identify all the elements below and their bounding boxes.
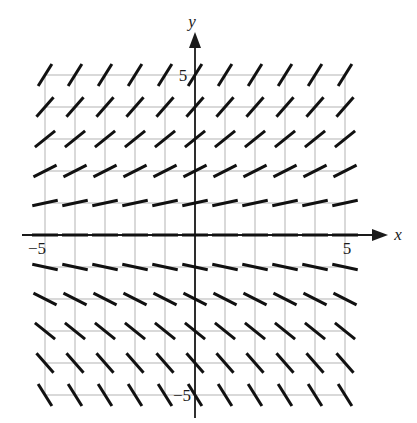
y-axis-label: y bbox=[186, 12, 196, 31]
slope-field-figure: −555−5xy bbox=[0, 0, 417, 423]
y-axis-arrowhead bbox=[189, 32, 201, 48]
x-tick-label-5: 5 bbox=[343, 239, 352, 258]
x-axis-arrowhead bbox=[372, 229, 388, 241]
slope-field-plot: −555−5xy bbox=[0, 0, 417, 423]
axes bbox=[22, 32, 388, 418]
x-tick-label-neg5: −5 bbox=[28, 239, 46, 258]
y-tick-label-5: 5 bbox=[179, 66, 188, 85]
x-axis-label: x bbox=[393, 225, 402, 244]
y-tick-label-neg5: −5 bbox=[173, 386, 191, 405]
